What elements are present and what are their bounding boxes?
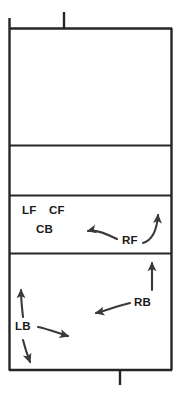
position-label-cf: CF bbox=[49, 204, 65, 216]
position-label-lf: LF bbox=[22, 204, 37, 216]
position-label-rf: RF bbox=[122, 234, 138, 246]
position-label-rb: RB bbox=[134, 296, 151, 308]
position-label-cb: CB bbox=[36, 223, 53, 235]
position-label-lb: LB bbox=[15, 320, 31, 332]
diagram-background bbox=[0, 0, 188, 394]
volleyball-court-diagram: LF CF CB RF RB LB bbox=[0, 0, 188, 394]
